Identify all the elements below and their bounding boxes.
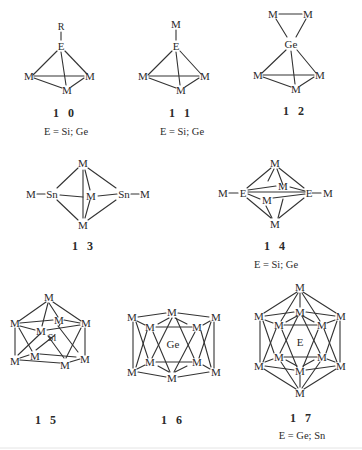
atom-M: M — [317, 319, 327, 331]
atom-M: M — [145, 321, 155, 333]
compound-caption-17: E = Ge; Sn — [279, 430, 326, 441]
atom-M: M — [62, 84, 72, 96]
structure-12-bonds — [262, 14, 316, 87]
compound-number-16: 1 6 — [161, 413, 185, 427]
compound-number-13: 1 3 — [72, 239, 96, 253]
atom-M: M — [200, 70, 210, 82]
atom-M: M — [315, 69, 325, 81]
atom-Sn: Sn — [118, 188, 130, 200]
atom-M: M — [127, 311, 137, 323]
atom-M: M — [274, 319, 284, 331]
atom-M: M — [295, 387, 305, 399]
atom-M: M — [291, 83, 301, 95]
atom-M: M — [218, 187, 228, 199]
compound-number-14: 1 4 — [264, 239, 288, 253]
compound-caption-10: E = Si; Ge — [44, 126, 88, 137]
atom-M: M — [86, 190, 96, 202]
atom-M: M — [167, 372, 177, 384]
atom-Si: Si — [48, 332, 57, 343]
atom-M: M — [295, 281, 305, 293]
atom-M: M — [270, 218, 280, 230]
atom-M: M — [138, 70, 148, 82]
atom-R: R — [58, 21, 65, 32]
atom-M: M — [176, 84, 186, 96]
atom-M: M — [167, 306, 177, 318]
atom-Ge: Ge — [285, 38, 298, 50]
cluster-structures-figure: R E M M M 1 0 E = Si; Ge M E M M M 1 1 E… — [0, 0, 362, 450]
structure-13: M Sn M M M Sn M 1 3 — [26, 157, 150, 253]
atom-M: M — [274, 351, 284, 363]
atom-M: M — [192, 356, 202, 368]
atom-M: M — [303, 8, 313, 20]
atom-Ge: Ge — [167, 338, 180, 350]
atom-M: M — [140, 188, 150, 200]
atom-E: E — [297, 336, 304, 348]
atom-M: M — [211, 366, 221, 378]
compound-caption-11: E = Si; Ge — [160, 126, 204, 137]
structure-10: R E M M M 1 0 E = Si; Ge — [24, 21, 95, 138]
atom-M: M — [145, 356, 155, 368]
atom-M: M — [268, 8, 278, 20]
compound-number-17: 1 7 — [290, 411, 314, 425]
atom-M: M — [254, 360, 264, 372]
atom-M: M — [254, 310, 264, 322]
atom-E: E — [58, 40, 65, 52]
atom-M: M — [253, 69, 263, 81]
atom-M: M — [295, 306, 305, 318]
atom-M: M — [60, 359, 70, 371]
atom-M: M — [54, 314, 64, 326]
atom-M: M — [10, 355, 20, 367]
atom-M: M — [10, 317, 20, 329]
atom-M: M — [85, 70, 95, 82]
structure-14: M E M M M M E M 1 4 E = Si; Ge — [218, 157, 333, 270]
atom-E: E — [240, 187, 247, 199]
atom-M: M — [78, 157, 88, 169]
atom-E: E — [173, 40, 180, 52]
atom-M: M — [80, 353, 90, 365]
atom-M: M — [317, 351, 327, 363]
compound-number-15: 1 5 — [35, 413, 59, 427]
atom-M: M — [24, 70, 34, 82]
atom-M: M — [278, 180, 288, 192]
atom-M: M — [26, 188, 36, 200]
atom-M: M — [323, 187, 333, 199]
structure-16: M M M M M Ge M M M M M 1 6 — [127, 306, 221, 427]
atom-M: M — [192, 321, 202, 333]
compound-number-10: 1 0 — [53, 106, 77, 120]
structure-17: M M M M M M E M M M M M M 1 7 E = Ge; Sn — [254, 281, 346, 441]
atom-M: M — [81, 317, 91, 329]
atom-M: M — [336, 310, 346, 322]
atom-M: M — [78, 219, 88, 231]
structure-12: M M Ge M M M 1 2 — [253, 8, 325, 118]
atom-M: M — [127, 366, 137, 378]
compound-number-12: 1 2 — [283, 104, 307, 118]
atom-M: M — [295, 365, 305, 377]
atom-M: M — [44, 291, 54, 303]
atom-E: E — [306, 187, 313, 199]
compound-number-11: 1 1 — [169, 106, 193, 120]
structure-11: M E M M M 1 1 E = Si; Ge — [138, 18, 210, 137]
atom-M: M — [36, 325, 46, 337]
atom-M: M — [270, 157, 280, 169]
atom-M: M — [171, 18, 181, 30]
atom-M: M — [336, 360, 346, 372]
structure-11-bonds — [148, 30, 201, 88]
compound-caption-14: E = Si; Ge — [254, 259, 298, 270]
atom-M: M — [211, 311, 221, 323]
structure-15: M M M M M Si M M M M 1 5 — [10, 291, 91, 427]
atom-M: M — [30, 350, 40, 362]
atom-Sn: Sn — [46, 188, 58, 200]
atom-M: M — [262, 194, 272, 206]
